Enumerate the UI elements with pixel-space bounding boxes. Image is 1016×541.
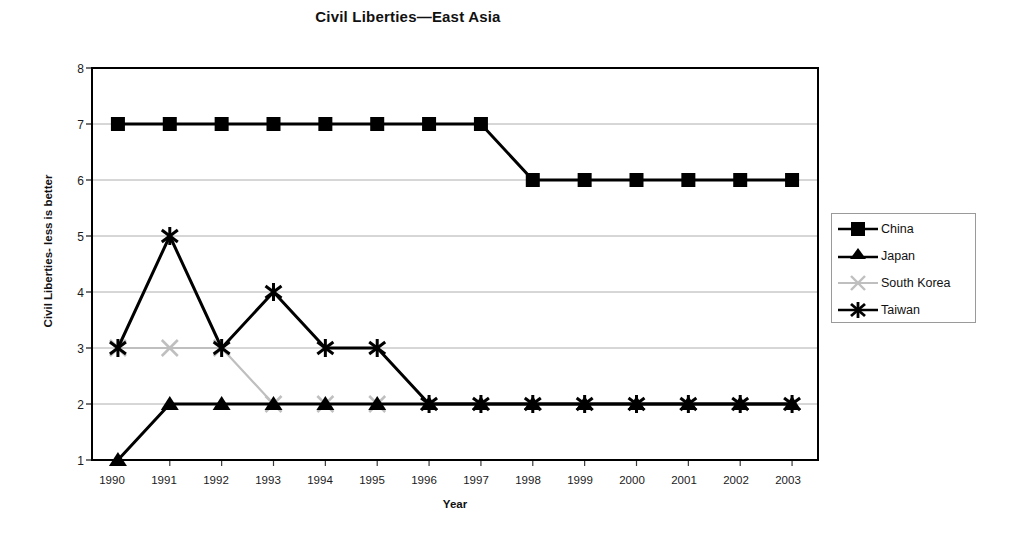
legend-marker-triangle-icon <box>836 246 880 266</box>
legend-item-south-korea[interactable]: South Korea <box>832 270 977 296</box>
y-tick-label-8: 8 <box>60 62 84 76</box>
x-tick-label-1997: 1997 <box>446 474 506 486</box>
legend: China Japan South Korea <box>831 213 976 323</box>
series-china <box>111 117 799 187</box>
legend-marker-asterisk-icon <box>836 300 880 320</box>
legend-label-japan: Japan <box>881 249 915 263</box>
legend-item-japan[interactable]: Japan <box>832 243 977 269</box>
y-tick-label-5: 5 <box>60 230 84 244</box>
series-japan <box>109 396 801 466</box>
legend-item-taiwan[interactable]: Taiwan <box>832 297 977 323</box>
x-tick-label-2002: 2002 <box>706 474 766 486</box>
x-tick-label-2001: 2001 <box>654 474 714 486</box>
chart-title: Civil Liberties—East Asia <box>0 8 816 25</box>
legend-label-taiwan: Taiwan <box>881 303 920 317</box>
x-tick-label-1991: 1991 <box>134 474 194 486</box>
x-tick-label-2000: 2000 <box>602 474 662 486</box>
x-tick-label-1994: 1994 <box>290 474 350 486</box>
x-tick-label-1996: 1996 <box>394 474 454 486</box>
y-tick-label-6: 6 <box>60 174 84 188</box>
legend-marker-x-icon <box>836 273 880 293</box>
x-tick-label-1993: 1993 <box>238 474 298 486</box>
x-axis-title: Year <box>92 498 818 510</box>
series-layer <box>109 117 801 466</box>
series-south-korea <box>110 340 385 412</box>
y-tick-label-1: 1 <box>60 454 84 468</box>
y-axis-title: Civil Liberties- less is better <box>42 141 54 361</box>
plot-frame <box>92 68 818 460</box>
x-tick-label-1990: 1990 <box>82 474 142 486</box>
x-tick-label-1998: 1998 <box>498 474 558 486</box>
y-tick-label-4: 4 <box>60 286 84 300</box>
y-tick-label-3: 3 <box>60 342 84 356</box>
gridlines <box>92 124 818 404</box>
legend-item-china[interactable]: China <box>832 216 977 242</box>
chart-container: Civil Liberties—East Asia Civil Libertie… <box>0 0 1016 541</box>
series-taiwan <box>110 227 800 413</box>
x-tick-label-2003: 2003 <box>758 474 818 486</box>
y-tick-label-2: 2 <box>60 398 84 412</box>
legend-marker-square-icon <box>836 219 880 239</box>
legend-label-south-korea: South Korea <box>881 276 951 290</box>
x-tick-label-1999: 1999 <box>550 474 610 486</box>
y-tick-label-7: 7 <box>60 118 84 132</box>
x-tick-label-1992: 1992 <box>186 474 246 486</box>
x-tick-label-1995: 1995 <box>342 474 402 486</box>
legend-label-china: China <box>881 222 914 236</box>
axis-ticks <box>86 68 792 466</box>
